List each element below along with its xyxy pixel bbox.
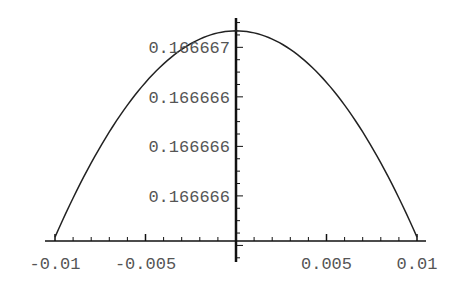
plot: -0.01-0.0050.0050.01 0.1666670.1666660.1…	[0, 0, 463, 293]
y-tick-label: 0.166666	[148, 89, 230, 108]
x-tick-label: 0.01	[397, 255, 438, 274]
x-axis-labels: -0.01-0.0050.0050.01	[29, 255, 437, 274]
y-axis-labels: 0.1666670.1666660.1666660.166666	[148, 39, 230, 207]
x-tick-label: -0.01	[29, 255, 80, 274]
y-tick-label: 0.166666	[148, 188, 230, 207]
x-tick-label: 0.005	[301, 255, 352, 274]
y-tick-label: 0.166667	[148, 39, 230, 58]
y-tick-label: 0.166666	[148, 138, 230, 157]
x-tick-label: -0.005	[115, 255, 176, 274]
